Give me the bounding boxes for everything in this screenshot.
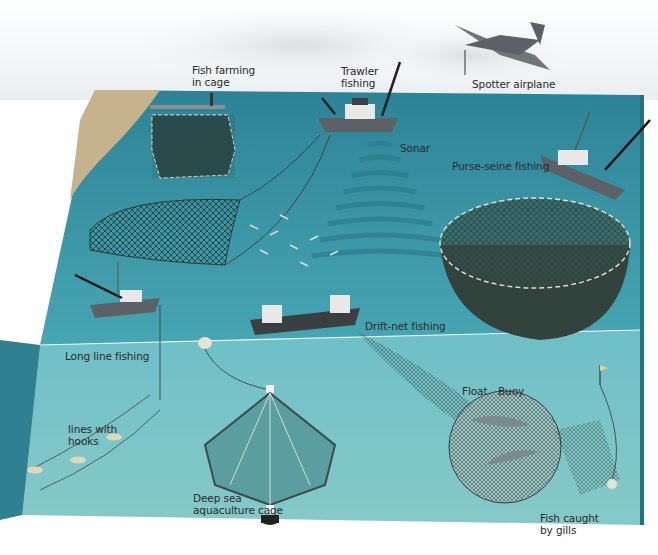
label-fish-caught-by-gills: Fish caught by gills <box>540 512 599 536</box>
label-sonar: Sonar <box>400 142 430 154</box>
label-fish-farming: Fish farming in cage <box>192 64 255 88</box>
label-buoy: Buoy <box>498 385 524 397</box>
label-trawler-fishing: Trawler fishing <box>341 65 378 89</box>
label-float: Float <box>462 385 487 397</box>
pier <box>150 105 225 109</box>
buoy-left <box>198 337 212 349</box>
label-lines-with-hooks: lines with hooks <box>68 423 117 447</box>
label-long-line-fishing: Long line fishing <box>65 350 149 362</box>
label-spotter-airplane: Spotter airplane <box>472 78 555 90</box>
label-purse-seine-fishing: Purse-seine fishing <box>452 160 549 172</box>
fishing-methods-diagram: Fish farming in cage Trawler fishing Spo… <box>0 0 658 555</box>
gill-net-magnifier <box>449 391 561 503</box>
label-drift-net-fishing: Drift-net fishing <box>365 320 446 332</box>
label-deep-sea-aquaculture-cage: Deep sea aquaculture cage <box>193 492 283 516</box>
diagram-illustration <box>0 0 658 555</box>
